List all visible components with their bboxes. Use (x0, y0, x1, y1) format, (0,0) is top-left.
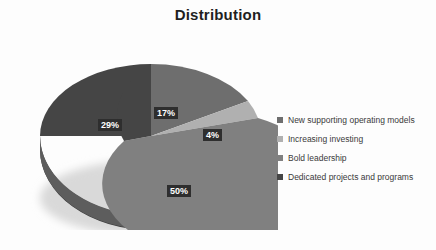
pie-svg (28, 30, 278, 230)
slice-value-label-4: 4% (203, 129, 222, 141)
legend-item-dedicated-projects-and-programs[interactable]: Dedicated projects and programs (277, 167, 435, 186)
legend-item-label: Increasing investing (288, 134, 363, 144)
pie-chart-figure: Distribution (0, 0, 436, 250)
legend-item-label: New supporting operating models (288, 115, 415, 125)
chart-title: Distribution (0, 6, 436, 23)
legend-swatch-icon (277, 136, 283, 142)
legend-swatch-icon (277, 174, 283, 180)
slice-value-label-17: 17% (154, 107, 178, 119)
legend-swatch-icon (277, 155, 283, 161)
chart-legend: New supporting operating models Increasi… (277, 110, 435, 186)
legend-item-new-supporting-operating-models[interactable]: New supporting operating models (277, 110, 435, 129)
legend-item-label: Dedicated projects and programs (288, 172, 413, 182)
pie-plot-area: 17% 4% 50% 29% (28, 30, 278, 230)
legend-swatch-icon (277, 117, 283, 123)
slice-value-label-29: 29% (98, 119, 122, 131)
legend-item-increasing-investing[interactable]: Increasing investing (277, 129, 435, 148)
legend-item-bold-leadership[interactable]: Bold leadership (277, 148, 435, 167)
legend-item-label: Bold leadership (288, 153, 347, 163)
slice-value-label-50: 50% (167, 185, 191, 197)
